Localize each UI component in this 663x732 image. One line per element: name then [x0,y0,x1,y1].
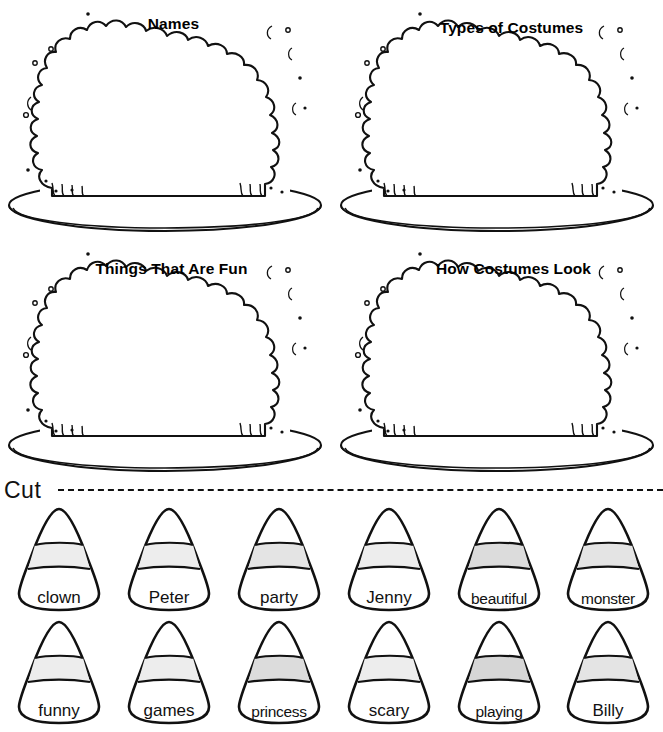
candy-corn-icon [447,504,551,614]
candy-corn-area: clown Peter party [0,504,663,732]
cake-illustration [0,0,331,235]
candy-corn-row: funny games princess [0,617,663,727]
candy-corn-icon [556,504,660,614]
candy-corn-icon [556,617,660,727]
candy-corn-card[interactable]: scary [337,617,441,727]
cut-line-row: Cut [0,476,663,504]
candy-corn-icon [337,504,441,614]
candy-corn-card[interactable]: funny [7,617,111,727]
cut-dashed-line [58,489,663,491]
worksheet-page: Names [0,0,663,732]
candy-corn-card[interactable]: beautiful [447,504,551,614]
candy-corn-icon [7,504,111,614]
cake-illustration [0,240,331,475]
candy-corn-card[interactable]: monster [556,504,660,614]
cake-card-things-that-are-fun: Things That Are Fun [0,240,331,475]
candy-corn-icon [7,617,111,727]
cake-illustration [332,0,663,235]
candy-corn-icon [227,504,331,614]
candy-corn-icon [447,617,551,727]
candy-corn-icon [117,617,221,727]
cut-label: Cut [4,479,41,502]
candy-corn-card[interactable]: games [117,617,221,727]
cake-illustration [332,240,663,475]
candy-corn-card[interactable]: party [227,504,331,614]
candy-corn-icon [227,617,331,727]
candy-corn-card[interactable]: princess [227,617,331,727]
candy-corn-icon [117,504,221,614]
candy-corn-card[interactable]: Billy [556,617,660,727]
candy-corn-card[interactable]: clown [7,504,111,614]
cake-card-names: Names [0,0,331,235]
candy-corn-card[interactable]: Jenny [337,504,441,614]
candy-corn-row: clown Peter party [0,504,663,614]
cake-card-types-of-costumes: Types of Costumes [332,0,663,235]
cake-card-how-costumes-look: How Costumes Look [332,240,663,475]
candy-corn-icon [337,617,441,727]
candy-corn-card[interactable]: playing [447,617,551,727]
cake-grid: Names [0,0,663,470]
candy-corn-card[interactable]: Peter [117,504,221,614]
